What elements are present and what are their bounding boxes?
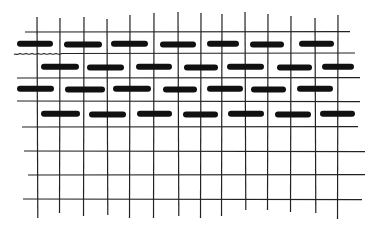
dash-mark [250, 42, 284, 48]
dash-mark [163, 87, 197, 93]
horizontal-grid-line [24, 151, 365, 152]
dash-mark [228, 111, 264, 117]
dash-mark [320, 111, 355, 117]
horizontal-grid-line [14, 53, 355, 54]
dash-mark [227, 64, 264, 70]
dash-mark [41, 111, 80, 117]
dash-mark [160, 42, 196, 48]
dash-mark [111, 41, 148, 47]
dash-mark [64, 42, 102, 48]
dash-mark [113, 86, 151, 92]
dash-mark [277, 65, 312, 71]
dash-mark [207, 41, 239, 47]
horizontal-grid-line [17, 101, 360, 102]
horizontal-grid-line [23, 199, 362, 200]
grid-figure [0, 0, 379, 227]
dash-mark [41, 64, 79, 70]
dash-mark [207, 86, 243, 92]
dash-mark [89, 112, 126, 118]
vertical-grid-line [315, 18, 316, 213]
dash-mark [65, 87, 105, 93]
dash-mark [322, 64, 354, 70]
dash-mark [299, 41, 334, 47]
vertical-grid-line [338, 15, 339, 219]
dash-mark [251, 87, 286, 93]
dash-mark [136, 64, 172, 70]
dash-mark [184, 65, 218, 71]
dash-mark [297, 86, 333, 92]
dash-mark [17, 86, 54, 92]
dash-rows [17, 41, 355, 118]
dash-mark [87, 65, 124, 71]
dash-mark [137, 111, 172, 117]
dash-mark [275, 112, 311, 118]
vertical-grid-line [37, 17, 38, 218]
dash-mark [17, 41, 53, 47]
dash-mark [183, 112, 218, 118]
